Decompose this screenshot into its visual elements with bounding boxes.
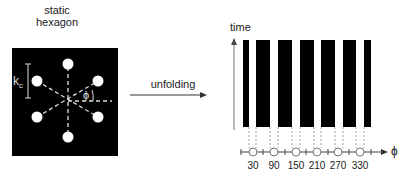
tick-270: 270: [326, 160, 350, 172]
tick-330: 330: [348, 160, 372, 172]
time-axis-label: time: [230, 21, 251, 33]
kc-subscript: c: [19, 81, 23, 90]
unfolding-arrow: [130, 92, 207, 98]
phi-angle-label: ϕ: [83, 89, 89, 101]
tick-90: 90: [264, 160, 284, 172]
unfolding-label: unfolding: [143, 78, 203, 90]
projection-lines: [249, 127, 364, 148]
phi-axis: [240, 148, 388, 156]
tick-30: 30: [243, 160, 263, 172]
kc-label: kc: [13, 75, 23, 92]
phi-axis-label: ϕ: [391, 145, 398, 157]
stripe-pattern: [243, 40, 371, 127]
time-axis: [231, 38, 237, 130]
diagram-canvas: [0, 0, 408, 180]
